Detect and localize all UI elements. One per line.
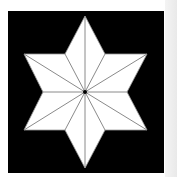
center-dot [83, 90, 87, 94]
star-icon [0, 0, 177, 177]
